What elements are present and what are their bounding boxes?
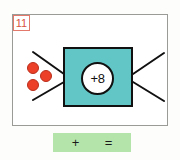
problem-number-badge: 11 bbox=[13, 15, 30, 31]
machine-rule-circle: +8 bbox=[81, 62, 114, 95]
plus-symbol: + bbox=[72, 136, 80, 149]
input-counter-dot bbox=[27, 79, 39, 91]
input-counter-dot bbox=[40, 70, 52, 82]
equals-symbol: = bbox=[105, 136, 113, 149]
input-counter-dot bbox=[27, 62, 39, 74]
answer-operation-bar[interactable]: + = bbox=[53, 133, 131, 152]
